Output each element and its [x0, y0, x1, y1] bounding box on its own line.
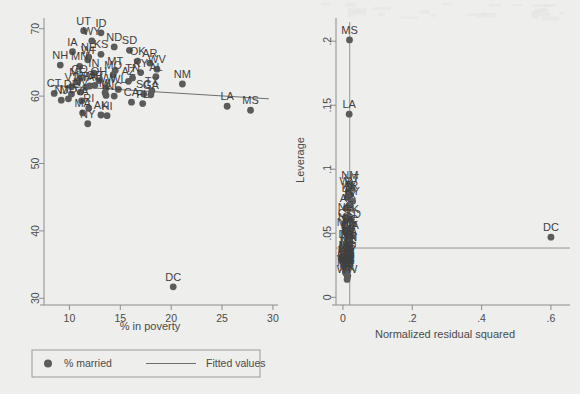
data-point-marker	[139, 100, 146, 107]
data-point-marker	[103, 92, 110, 99]
scan-speck	[539, 8, 548, 11]
data-point-marker	[104, 112, 111, 119]
data-point-marker	[548, 234, 555, 241]
scan-speck	[347, 15, 354, 17]
data-point-label: HI	[102, 100, 113, 112]
right-scatter-points: MSLANMUTWVARIDKYTXALNHOKCTSDNJSCMDVTGAFL…	[337, 24, 559, 283]
data-point-label: NJ	[55, 84, 68, 96]
data-point-label: ND	[106, 31, 122, 43]
scan-speck	[531, 11, 539, 14]
data-point-label: MN	[71, 50, 88, 62]
y-tick-label: .1	[321, 165, 333, 174]
data-point-marker	[98, 112, 105, 119]
data-point-marker	[111, 93, 118, 100]
data-point-marker	[65, 95, 72, 102]
left-x-axis-title: % in poverty	[120, 320, 181, 332]
y-tick-label: .15	[321, 98, 333, 113]
right-plot-svg: 0.05.1.15.2 0.2.4.6 MSLANMUTWVARIDKYTXAL…	[290, 0, 580, 394]
scan-speck	[543, 4, 555, 7]
y-tick-label: 50	[29, 158, 41, 170]
data-point-marker	[346, 111, 353, 118]
data-point-marker	[128, 99, 135, 106]
right-x-axis-title: Normalized residual squared	[375, 328, 515, 340]
left-scatter-points: UTIDWYNDSDIAKSNEWIOKARNHMNWVMTKYINMOALTN…	[47, 15, 259, 290]
legend-label-fitted: Fitted values	[206, 357, 266, 369]
left-legend: % married Fitted values	[32, 350, 266, 377]
data-point-marker	[344, 276, 351, 283]
scan-speck	[373, 7, 391, 9]
right-x-ticks: 0.2.4.6	[340, 305, 555, 324]
left-plot-svg: 3040506070 1015202530 UTIDWYNDSDIAKSNEWI…	[0, 0, 290, 394]
x-tick-label: 30	[267, 312, 279, 324]
data-point-label: AL	[149, 61, 162, 73]
data-point-marker	[224, 103, 231, 110]
y-tick-label: 60	[29, 90, 41, 102]
x-tick-label: 0	[340, 312, 346, 324]
y-tick-label: 40	[29, 225, 41, 237]
data-point-marker	[170, 283, 177, 290]
data-point-label: LA	[220, 90, 234, 102]
scan-speck	[420, 10, 430, 13]
scan-speck	[467, 13, 484, 15]
y-tick-label: 70	[29, 23, 41, 35]
scan-speck	[402, 17, 418, 19]
right-y-axis-title: Leverage	[294, 137, 306, 183]
data-point-label: DC	[543, 221, 559, 233]
data-point-label: LA	[342, 98, 356, 110]
data-point-label: NH	[52, 49, 68, 61]
data-point-marker	[346, 37, 353, 44]
scan-speck	[489, 4, 501, 6]
scan-speck	[378, 13, 385, 16]
data-point-marker	[179, 81, 186, 88]
scan-speck	[347, 8, 358, 12]
x-tick-label: .2	[408, 312, 417, 324]
data-point-marker	[57, 62, 64, 69]
x-tick-label: 25	[216, 312, 228, 324]
data-point-marker	[111, 44, 118, 51]
panel-poverty-vs-married: 3040506070 1015202530 UTIDWYNDSDIAKSNEWI…	[0, 0, 290, 394]
data-point-label: FL	[136, 88, 149, 100]
left-y-ticks: 3040506070	[29, 23, 44, 304]
right-y-ticks: 0.05.1.15.2	[321, 37, 336, 301]
y-tick-label: .05	[321, 226, 333, 241]
scan-artifacts	[321, 3, 564, 21]
data-point-label: MS	[242, 94, 259, 106]
scan-speck	[345, 3, 356, 7]
x-tick-label: 10	[64, 312, 76, 324]
figure-container: 3040506070 1015202530 UTIDWYNDSDIAKSNEWI…	[0, 0, 580, 394]
scan-speck	[532, 16, 539, 19]
scan-speck	[321, 3, 331, 5]
data-point-label: IA	[67, 36, 78, 48]
scan-speck	[477, 16, 495, 18]
data-point-label: NY	[80, 108, 96, 120]
data-point-label: NC	[106, 80, 122, 92]
data-point-marker	[247, 107, 254, 114]
legend-dot-marker	[44, 360, 52, 368]
panel-leverage-vs-residual: 0.05.1.15.2 0.2.4.6 MSLANMUTWVARIDKYTXAL…	[290, 0, 580, 394]
data-point-label: NM	[174, 68, 191, 80]
scan-speck	[513, 4, 522, 6]
y-tick-label: 30	[29, 292, 41, 304]
scan-speck	[482, 13, 495, 16]
data-point-marker	[84, 120, 91, 127]
scan-speck	[542, 17, 559, 21]
data-point-label: MS	[341, 24, 358, 36]
right-reference-lines	[336, 22, 570, 305]
data-point-marker	[58, 97, 65, 104]
data-point-label: DC	[165, 271, 181, 283]
data-point-label: WW	[337, 263, 358, 275]
x-tick-label: .4	[477, 312, 486, 324]
y-tick-label: 0	[321, 294, 333, 300]
scan-speck	[559, 12, 564, 14]
scan-speck	[357, 8, 366, 11]
legend-label-married: % married	[64, 357, 112, 369]
y-tick-label: .2	[321, 37, 333, 46]
scan-speck	[442, 3, 451, 5]
x-tick-label: .6	[547, 312, 556, 324]
scan-speck	[430, 15, 436, 17]
data-point-label: WY	[83, 25, 101, 37]
